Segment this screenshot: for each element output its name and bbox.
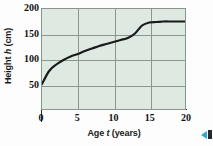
x-axis-tick-labels: 05101520	[41, 112, 187, 126]
page-corner-marker	[201, 130, 212, 139]
x-tick-label: 5	[65, 112, 89, 124]
x-axis-title-pre: Age	[87, 128, 106, 138]
y-tick-label: 150	[15, 29, 39, 39]
x-tick-label: 10	[102, 112, 126, 124]
y-tick-label: 100	[15, 54, 39, 64]
x-axis-title-post: (years)	[109, 128, 140, 138]
height-curve-path	[42, 21, 185, 84]
data-curve-svg	[42, 9, 185, 109]
corner-bar-icon	[208, 130, 212, 139]
height-vs-age-chart-figure: Height h (cm) 50100150200 05101520 Age t…	[0, 0, 213, 146]
y-axis-tick-labels: 50100150200	[12, 0, 39, 146]
y-tick-label: 200	[15, 3, 39, 13]
x-tick-label: 20	[174, 112, 198, 124]
x-axis-title: Age t (years)	[41, 128, 187, 138]
y-tick-label: 50	[15, 80, 39, 90]
plot-area	[41, 8, 186, 110]
x-tick-label: 15	[138, 112, 162, 124]
x-tick-label: 0	[29, 112, 53, 124]
left-triangle-icon	[201, 131, 207, 139]
